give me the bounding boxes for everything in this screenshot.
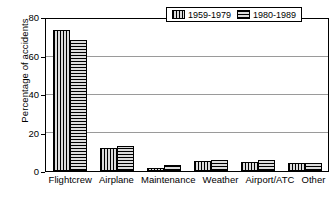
bar-chart: Percentage of accidents 020406080 Flight… [0,0,336,199]
x-tick-label: Airport/ATC [246,174,295,188]
x-tick-label: Flightcrew [49,174,92,188]
x-tick-label: Other [302,174,326,188]
bar [53,30,70,171]
bar [258,160,275,171]
x-tick-label: Airplane [99,174,134,188]
bar-group [147,19,181,171]
plot-area [45,18,329,172]
bar-group [100,19,134,171]
legend-swatch-icon [172,10,185,19]
y-tick-label: 80 [0,12,39,23]
bar [194,161,211,171]
bar [288,163,305,171]
legend-label: 1980-1989 [253,10,296,20]
bar [164,165,181,171]
y-tick-label: 20 [0,128,39,139]
legend-entry: 1959-1979 [172,10,231,20]
y-tick-mark [41,172,45,173]
y-tick-label: 40 [0,89,39,100]
x-tick-label: Weather [203,174,239,188]
legend-entry: 1980-1989 [237,10,296,20]
bar-group [241,19,275,171]
legend-label: 1959-1979 [188,10,231,20]
x-tick-label: Maintenance [141,174,195,188]
y-tick-label: 0 [0,166,39,177]
bar [211,160,228,171]
bar [241,162,258,171]
chart-legend: 1959-19791980-1989 [166,7,302,22]
y-tick-label: 60 [0,51,39,62]
bar-group [194,19,228,171]
legend-swatch-icon [237,10,250,19]
bar [117,146,134,171]
bar-group [288,19,322,171]
bar [305,163,322,171]
bar-group [53,19,87,171]
bar [100,148,117,171]
bar [70,40,87,171]
bar-groups [46,19,328,171]
bar [147,168,164,171]
x-axis-labels: FlightcrewAirplaneMaintenanceWeatherAirp… [45,174,329,188]
